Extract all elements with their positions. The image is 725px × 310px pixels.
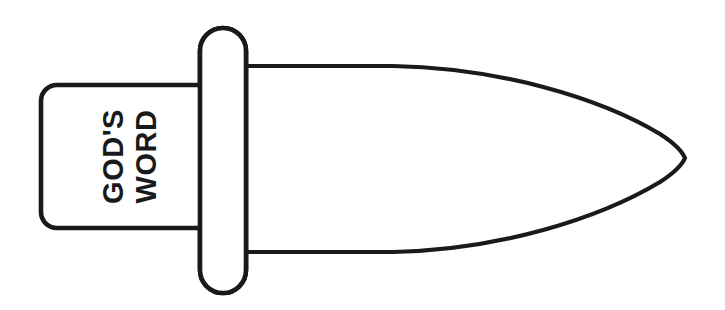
handle-label-group: GOD'S WORD <box>97 109 162 204</box>
handle-label-line-1: GOD'S <box>97 109 129 204</box>
sword-blade <box>230 66 685 252</box>
handle-label-line-2: WORD <box>130 110 162 204</box>
illustration-canvas: GOD'S WORD <box>0 0 725 310</box>
sword-guard-overlay <box>200 28 246 293</box>
sword-illustration: GOD'S WORD <box>0 0 725 310</box>
